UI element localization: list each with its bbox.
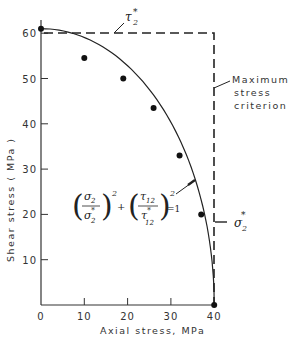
chart: 102030405060 010203040 τ 2 * Maximum str… <box>0 0 288 345</box>
svg-text:(: ( <box>128 188 140 223</box>
equation-leader-arrow <box>188 180 195 185</box>
svg-text:*: * <box>147 206 151 215</box>
sigma-star-sub: 2 <box>241 224 247 233</box>
tau-star-label: τ <box>125 10 132 24</box>
data-point <box>120 76 126 82</box>
y-tick-label: 50 <box>22 74 37 85</box>
data-points <box>38 26 217 308</box>
max-stress-label-3: criterion <box>234 100 287 111</box>
tau-star-sub: 2 <box>132 18 138 27</box>
max-stress-label-2: stress <box>234 87 271 98</box>
svg-text:*: * <box>91 206 95 215</box>
data-point <box>38 26 44 32</box>
equation: ( σ2 σ2* ) 2 + ( τ12 τ12* ) 2 =1 <box>72 188 180 227</box>
sigma-star-sup: * <box>241 210 246 220</box>
y-tick-label: 60 <box>22 28 37 39</box>
x-ticks: 010203040 <box>37 298 221 322</box>
x-tick-label: 10 <box>77 311 92 322</box>
tau-star-sup: * <box>133 7 138 17</box>
svg-text:): ) <box>101 188 113 223</box>
svg-text:2: 2 <box>111 189 117 198</box>
svg-text:(: ( <box>72 188 84 223</box>
x-tick-label: 40 <box>207 311 222 322</box>
svg-text:2: 2 <box>90 197 96 205</box>
data-point <box>198 211 204 217</box>
tsai-hill-curve <box>41 29 214 305</box>
y-tick-label: 10 <box>22 255 37 266</box>
max-stress-criterion-line <box>44 33 214 305</box>
svg-text:2: 2 <box>169 189 175 198</box>
data-point <box>151 105 157 111</box>
x-tick-label: 0 <box>37 311 44 322</box>
svg-text:12: 12 <box>146 197 155 205</box>
data-point <box>81 55 87 61</box>
svg-text:=1: =1 <box>167 204 180 214</box>
x-tick-label: 20 <box>120 311 135 322</box>
x-axis-label: Axial stress, MPa <box>100 325 205 336</box>
x-tick-label: 30 <box>164 311 179 322</box>
svg-text:2: 2 <box>90 217 96 225</box>
y-ticks: 102030405060 <box>22 28 48 266</box>
svg-text:+: + <box>117 201 125 212</box>
svg-text:12: 12 <box>145 219 154 227</box>
y-tick-label: 40 <box>22 119 37 130</box>
max-stress-leader <box>214 81 230 88</box>
y-tick-label: 30 <box>22 164 37 175</box>
data-point <box>211 302 217 308</box>
max-stress-label-1: Maximum <box>232 74 288 85</box>
y-tick-label: 20 <box>22 209 37 220</box>
tau-star-leader <box>114 23 124 33</box>
data-point <box>177 153 183 159</box>
y-axis-label: Shear stress ( MPa ) <box>5 137 16 262</box>
